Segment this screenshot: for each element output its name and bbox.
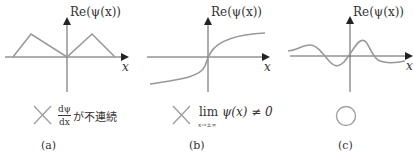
fraction-bar (58, 115, 71, 116)
panel-a-cross-icon (34, 106, 51, 124)
panel-b-verdict-formula: lim ψ(x) ≠ 0 (199, 105, 273, 119)
panel-c-x-label: x (406, 59, 413, 73)
fraction-numerator: dψ (58, 104, 71, 114)
panel-b-plot (147, 19, 268, 92)
lim-subscript: x→±∞ (198, 121, 216, 128)
panel-a-plot (5, 19, 127, 92)
panel-b-cross-icon (173, 106, 190, 124)
panel-a-x-label: x (122, 60, 129, 74)
panel-a-curve (13, 34, 115, 57)
panel-b-curve (150, 33, 265, 84)
panel-c-plot (288, 18, 411, 92)
panel-c-caption: (c) (338, 139, 353, 152)
figure-canvas (0, 0, 414, 158)
panel-c-y-label: Re(ψ(x)) (353, 5, 404, 19)
panel-b-y-label: Re(ψ(x)) (211, 5, 262, 19)
panel-c-curve (288, 40, 405, 65)
panel-a-y-label: Re(ψ(x)) (70, 5, 121, 19)
lim-operator: lim (199, 105, 218, 119)
panel-a-verdict-text: が不連続 (73, 108, 117, 124)
panel-b-verdict-text: ψ(x) ≠ 0 (222, 105, 273, 119)
fraction-denominator: dx (59, 117, 70, 127)
panel-a-derivative-fraction: dψ dx (58, 104, 71, 127)
panel-c-circle-icon (337, 107, 356, 126)
panel-a-caption: (a) (41, 139, 56, 152)
panel-b-caption: (b) (189, 139, 205, 152)
panel-b-x-label: x (264, 60, 271, 74)
